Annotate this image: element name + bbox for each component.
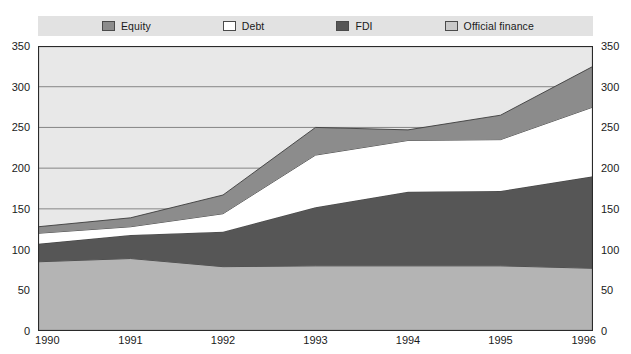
y-tick-right-250: 250 (601, 121, 619, 133)
y-tick-left-200: 200 (12, 162, 30, 174)
legend-item-debt: Debt (223, 20, 265, 32)
legend-item-equity: Equity (102, 20, 151, 32)
legend-item-official-finance: Official finance (445, 20, 534, 32)
x-tick-1993: 1993 (303, 334, 327, 346)
chart-legend: Equity Debt FDI Official finance (38, 16, 593, 36)
y-tick-right-50: 50 (601, 284, 613, 296)
y-tick-left-300: 300 (12, 81, 30, 93)
plot-svg (38, 46, 593, 331)
y-axis-left: 050100150200250300350 (0, 0, 34, 354)
y-tick-left-100: 100 (12, 244, 30, 256)
legend-swatch-debt (223, 21, 236, 31)
y-tick-right-200: 200 (601, 162, 619, 174)
x-tick-1992: 1992 (211, 334, 235, 346)
legend-swatch-fdi (336, 21, 349, 31)
x-tick-1995: 1995 (488, 334, 512, 346)
x-tick-1996: 1996 (571, 334, 595, 346)
legend-label-official-finance: Official finance (464, 20, 534, 32)
y-tick-left-350: 350 (12, 40, 30, 52)
legend-label-debt: Debt (242, 20, 265, 32)
y-tick-left-150: 150 (12, 203, 30, 215)
y-tick-left-50: 50 (18, 284, 30, 296)
y-tick-left-250: 250 (12, 121, 30, 133)
y-tick-right-300: 300 (601, 81, 619, 93)
x-tick-1991: 1991 (118, 334, 142, 346)
legend-label-fdi: FDI (355, 20, 372, 32)
stacked-area-chart: Equity Debt FDI Official finance 0501001… (0, 0, 631, 354)
y-tick-right-150: 150 (601, 203, 619, 215)
y-axis-right: 050100150200250300350 (597, 0, 631, 354)
legend-item-fdi: FDI (336, 20, 372, 32)
x-axis: 1990199119921993199419951996 (0, 334, 631, 354)
y-tick-right-100: 100 (601, 244, 619, 256)
x-tick-1990: 1990 (35, 334, 59, 346)
area-band-official-finance (38, 259, 593, 331)
y-tick-right-350: 350 (601, 40, 619, 52)
legend-swatch-equity (102, 21, 115, 31)
legend-label-equity: Equity (121, 20, 151, 32)
plot-area (38, 46, 593, 331)
x-tick-1994: 1994 (396, 334, 420, 346)
legend-swatch-official-finance (445, 21, 458, 31)
